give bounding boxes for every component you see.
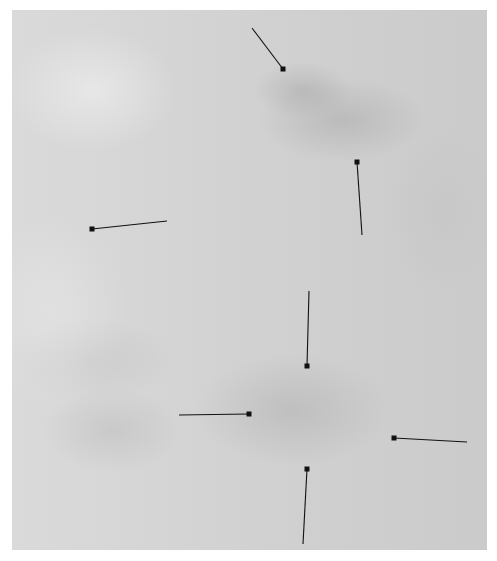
pointer-arrow (392, 436, 468, 443)
pointer-tip-square-icon (90, 227, 95, 232)
pointer-tip-square-icon (247, 412, 252, 417)
pointer-line (179, 414, 249, 415)
pointer-line (303, 469, 307, 544)
pointer-tip-square-icon (392, 436, 397, 441)
pointer-tip-square-icon (355, 160, 360, 165)
pointer-line (252, 28, 283, 69)
pointer-line (307, 291, 309, 366)
pointer-arrow (305, 291, 310, 369)
pointer-tip-square-icon (281, 67, 286, 72)
pointer-arrow (303, 467, 310, 545)
pointer-line (92, 221, 167, 229)
pointer-arrow (90, 221, 168, 232)
pointer-line (357, 162, 362, 235)
pointer-tip-square-icon (305, 364, 310, 369)
pointer-arrow (179, 412, 252, 417)
pointer-line (394, 438, 467, 442)
pointer-arrow (252, 28, 286, 72)
pointer-overlay (0, 0, 497, 561)
pointer-arrow (355, 160, 363, 236)
pointer-tip-square-icon (305, 467, 310, 472)
